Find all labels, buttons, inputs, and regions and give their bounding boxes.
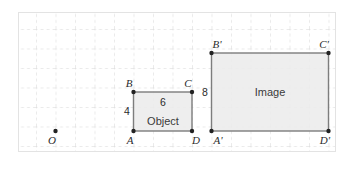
vertex-label-d-prime: D' — [319, 134, 331, 146]
center-point-o — [53, 129, 57, 133]
object-name-label: Object — [147, 115, 179, 127]
vertex-label-c: C — [184, 77, 192, 89]
vertex-point-b — [131, 90, 135, 94]
vertex-point-d — [190, 129, 194, 133]
vertex-label-b-prime: B' — [212, 38, 222, 50]
vertex-label-c-prime: C' — [319, 38, 329, 50]
vertex-point-c-prime — [326, 51, 330, 55]
vertex-label-d: D — [191, 134, 200, 146]
vertex-point-b-prime — [209, 51, 213, 55]
object-height-label: 4 — [124, 105, 130, 117]
image-shape-group: A' B' C' D' 8 Image — [202, 38, 331, 146]
vertex-label-b: B — [126, 77, 133, 89]
vertex-point-a — [131, 129, 135, 133]
image-name-label: Image — [255, 86, 286, 98]
figure-root: A B C D 4 6 Object A' B' C' D' 8 — [0, 0, 351, 171]
diagram-card: A B C D 4 6 Object A' B' C' D' 8 — [18, 12, 336, 152]
image-height-label: 8 — [202, 86, 208, 98]
object-width-label: 6 — [160, 96, 166, 108]
geometry-diagram: A B C D 4 6 Object A' B' C' D' 8 — [19, 13, 335, 151]
vertex-point-d-prime — [326, 129, 330, 133]
vertex-point-c — [190, 90, 194, 94]
vertex-label-a-prime: A' — [212, 134, 223, 146]
vertex-label-a: A — [126, 134, 134, 146]
center-label-o: O — [48, 134, 56, 146]
vertex-point-a-prime — [209, 129, 213, 133]
